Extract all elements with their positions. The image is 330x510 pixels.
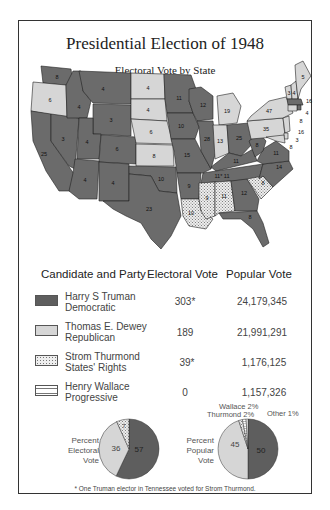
electoral-pie-label: Percent Electoral Vote <box>51 436 99 466</box>
svg-text:12: 12 <box>200 102 206 108</box>
svg-text:47: 47 <box>266 108 272 114</box>
legend-row-dewey: Thomas E. Dewey Republican 189 21,991,29… <box>19 321 311 351</box>
state-MA <box>287 99 303 105</box>
svg-text:4: 4 <box>77 104 80 110</box>
svg-text:4: 4 <box>83 177 86 183</box>
svg-text:4: 4 <box>305 110 308 116</box>
popular-pie-label: Percent Popular Vote <box>172 436 214 466</box>
popular-vote: 1,157,326 <box>224 387 304 398</box>
svg-text:8: 8 <box>261 180 264 186</box>
svg-text:9: 9 <box>187 183 190 189</box>
popular-vote-pie: 50 45 <box>217 418 279 480</box>
svg-text:13: 13 <box>217 138 223 144</box>
state-RI <box>297 105 301 110</box>
svg-text:19: 19 <box>224 108 230 114</box>
svg-text:15: 15 <box>184 152 190 158</box>
svg-text:25: 25 <box>236 135 242 141</box>
svg-text:6: 6 <box>115 146 118 152</box>
svg-text:8: 8 <box>289 144 292 150</box>
svg-text:8: 8 <box>248 214 251 220</box>
svg-text:23: 23 <box>146 206 152 212</box>
svg-text:3: 3 <box>295 137 298 143</box>
header-popular: Popular Vote <box>226 268 292 280</box>
candidate-party: States' Rights <box>65 362 140 373</box>
svg-text:45: 45 <box>231 440 240 449</box>
legend-row-wallace: Henry Wallace Progressive 0 1,157,326 <box>19 381 311 411</box>
svg-text:10: 10 <box>158 176 164 182</box>
candidate-party: Progressive <box>65 392 130 403</box>
swatch-truman <box>35 295 58 306</box>
svg-text:4: 4 <box>101 86 104 92</box>
svg-text:5: 5 <box>301 74 304 80</box>
header-candidate: Candidate and Party <box>41 268 146 280</box>
svg-text:4: 4 <box>85 139 88 145</box>
svg-text:11: 11 <box>176 95 182 101</box>
svg-text:25: 25 <box>41 151 47 157</box>
other-callout: Other 1% <box>267 409 299 418</box>
header-electoral: Electoral Vote <box>147 268 218 280</box>
svg-text:3: 3 <box>109 117 112 123</box>
svg-text:57: 57 <box>135 445 144 454</box>
candidate-party: Republican <box>65 332 147 343</box>
figure-frame: Presidential Election of 1948 Electoral … <box>18 20 312 494</box>
swatch-dewey <box>35 325 58 336</box>
svg-text:35: 35 <box>263 126 269 132</box>
candidate-name: Henry Wallace <box>65 381 130 392</box>
svg-text:8: 8 <box>152 153 155 159</box>
electoral-vote: 189 <box>155 327 215 338</box>
candidate-party: Democratic <box>65 302 136 313</box>
svg-text:4: 4 <box>292 90 295 96</box>
svg-text:11: 11 <box>273 150 279 156</box>
svg-text:8: 8 <box>299 118 302 124</box>
popular-vote: 24,179,345 <box>222 296 302 307</box>
electoral-vote: 303* <box>155 296 215 307</box>
svg-text:8: 8 <box>255 142 258 148</box>
svg-text:11: 11 <box>221 193 227 199</box>
svg-text:16: 16 <box>298 129 304 135</box>
svg-text:16: 16 <box>306 98 312 104</box>
popular-vote: 21,991,291 <box>222 327 302 338</box>
svg-text:28: 28 <box>204 136 210 142</box>
svg-text:36: 36 <box>112 444 121 453</box>
us-electoral-map: 8 6 25 3 4 4 3 4 6 4 4 4 4 6 8 10 23 11 … <box>19 21 313 261</box>
state-FL <box>219 211 269 247</box>
state-CT <box>288 105 297 111</box>
electoral-vote: 0 <box>155 387 215 398</box>
svg-text:3: 3 <box>61 136 64 142</box>
svg-text:6: 6 <box>48 97 51 103</box>
footnote: * One Truman elector in Tennessee voted … <box>19 485 311 492</box>
svg-text:50: 50 <box>257 446 266 455</box>
svg-text:11: 11 <box>233 158 239 164</box>
svg-text:14: 14 <box>276 164 282 170</box>
svg-text:3: 3 <box>287 90 290 96</box>
swatch-thurmond <box>35 355 58 366</box>
svg-text:4: 4 <box>111 180 114 186</box>
svg-text:4: 4 <box>146 107 149 113</box>
svg-text:4: 4 <box>146 85 149 91</box>
svg-text:8: 8 <box>55 74 58 80</box>
svg-text:6: 6 <box>149 129 152 135</box>
svg-text:12: 12 <box>241 190 247 196</box>
svg-text:11* 11: 11* 11 <box>214 173 229 179</box>
state-ME <box>295 61 311 99</box>
svg-text:10: 10 <box>178 123 184 129</box>
legend-row-truman: Harry S Truman Democratic 303* 24,179,34… <box>19 291 311 321</box>
candidate-name: Strom Thurmond <box>65 351 140 362</box>
swatch-wallace <box>35 385 58 396</box>
candidate-name: Thomas E. Dewey <box>65 321 147 332</box>
svg-text:10: 10 <box>188 210 194 216</box>
popular-vote: 1,176,125 <box>224 357 304 368</box>
electoral-vote: 39* <box>157 357 217 368</box>
candidate-name: Harry S Truman <box>65 291 136 302</box>
electoral-vote-pie: 57 36 7 <box>98 418 160 480</box>
svg-text:9: 9 <box>205 195 208 201</box>
legend-row-thurmond: Strom Thurmond States' Rights 39* 1,176,… <box>19 351 311 381</box>
